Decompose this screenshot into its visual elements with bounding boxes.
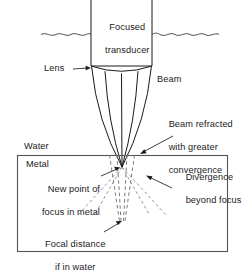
divergence-line1: Divergence [186,172,233,182]
water-surface-left-wave [41,34,91,36]
beam-label: Beam [157,74,181,86]
lens-label: Lens [44,63,64,75]
new-focus-line2: focus in metal [42,207,100,217]
focal-distance-label: Focal distance if in water [34,227,106,274]
water-label: Water [24,141,49,153]
beam-refracted-line1: Beam refracted [169,119,233,129]
focal-distance-line2: if in water [55,262,95,272]
focal-distance-leader [104,221,122,232]
transducer-label-line1: Focused [109,22,145,32]
transducer-label-line2: transducer [105,45,149,55]
new-focus-label: New point of focus in metal [25,172,100,230]
divergence-label: Divergence beyond focus [175,160,241,218]
new-focus-line1: New point of [48,184,100,194]
transducer-label: Focused transducer [88,10,156,68]
divergence-line2: beyond focus [186,195,242,205]
focal-distance-line1: Focal distance [45,239,106,249]
beam-refracted-line2: with greater [169,142,218,152]
metal-label: Metal [26,159,49,171]
water-surface-right-wave [152,33,219,35]
